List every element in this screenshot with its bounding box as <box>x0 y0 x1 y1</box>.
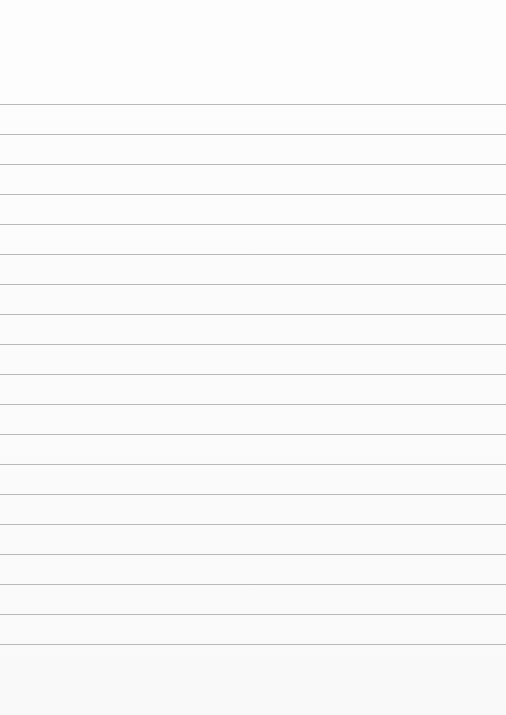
ruled-line <box>0 614 506 615</box>
lined-paper-sheet <box>0 0 506 715</box>
ruled-line <box>0 464 506 465</box>
ruled-line <box>0 584 506 585</box>
ruled-line <box>0 344 506 345</box>
ruled-line <box>0 194 506 195</box>
ruled-line <box>0 524 506 525</box>
ruled-line <box>0 134 506 135</box>
ruled-line <box>0 494 506 495</box>
ruled-line <box>0 314 506 315</box>
ruled-line <box>0 554 506 555</box>
ruled-line <box>0 224 506 225</box>
ruled-line <box>0 434 506 435</box>
ruled-line <box>0 254 506 255</box>
ruled-line <box>0 104 506 105</box>
ruled-line <box>0 164 506 165</box>
ruled-line <box>0 374 506 375</box>
ruled-line <box>0 284 506 285</box>
ruled-line <box>0 644 506 645</box>
ruled-line <box>0 404 506 405</box>
